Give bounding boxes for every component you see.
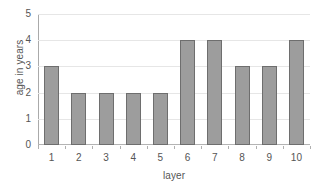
gridline-5 (38, 14, 310, 15)
x-tick-mark (283, 146, 284, 149)
x-tick-label-3: 3 (92, 152, 120, 163)
x-tick-mark (228, 146, 229, 149)
y-tick-label-2: 2 (0, 88, 31, 98)
x-tick-label-9: 9 (255, 152, 283, 163)
bar (153, 93, 168, 145)
bar (44, 66, 59, 145)
gridline-4 (38, 40, 310, 41)
x-tick-label-1: 1 (38, 152, 66, 163)
bar (99, 93, 114, 145)
bar (262, 66, 277, 145)
y-tick-label-4: 4 (0, 35, 31, 45)
x-axis-title: layer (38, 170, 310, 181)
x-tick-label-5: 5 (146, 152, 174, 163)
y-tick-label-0: 0 (0, 140, 31, 150)
x-tick-label-7: 7 (201, 152, 229, 163)
x-tick-mark (310, 146, 311, 149)
x-tick-mark (120, 146, 121, 149)
plot-area (38, 14, 310, 145)
bar (126, 93, 141, 145)
bar (235, 66, 250, 145)
bar (207, 40, 222, 145)
bar-chart: age in years 543210 12345678910 layer (0, 0, 316, 191)
y-tick-label-5: 5 (0, 9, 31, 19)
y-tick-label-3: 3 (0, 61, 31, 71)
x-tick-label-6: 6 (174, 152, 202, 163)
bar (180, 40, 195, 145)
x-tick-mark (92, 146, 93, 149)
bar (289, 40, 304, 145)
x-tick-label-4: 4 (119, 152, 147, 163)
x-tick-label-2: 2 (65, 152, 93, 163)
x-tick-mark (65, 146, 66, 149)
x-tick-mark (201, 146, 202, 149)
x-tick-mark (256, 146, 257, 149)
y-tick-label-1: 1 (0, 114, 31, 124)
x-tick-mark (147, 146, 148, 149)
bar (71, 93, 86, 145)
x-tick-mark (174, 146, 175, 149)
x-tick-mark (38, 146, 39, 149)
x-tick-label-8: 8 (228, 152, 256, 163)
x-tick-label-10: 10 (282, 152, 310, 163)
